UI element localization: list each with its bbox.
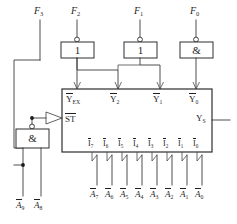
- label-a2: A2: [165, 188, 173, 199]
- label-y2: Y2: [110, 93, 119, 104]
- label-f3: F3: [34, 6, 43, 16]
- label-y-ex: YEX: [66, 93, 80, 104]
- arrow-i4-input: [137, 152, 142, 161]
- label-f1: F1: [134, 6, 143, 16]
- label-i5: I5: [118, 138, 123, 148]
- arrow-i0-input: [197, 152, 202, 161]
- wire-bus-mid-left: [118, 65, 140, 70]
- arrow-i2-input: [167, 152, 172, 161]
- label-i4: I4: [133, 138, 138, 148]
- label-strobe-st: ST: [65, 113, 76, 124]
- gate-symbol-f1: 1: [124, 44, 157, 56]
- wire-gate-f2-to-y2: [77, 58, 118, 88]
- label-i1: I1: [178, 138, 183, 148]
- label-a9: A9: [16, 199, 24, 210]
- bubble-gate-f1: [138, 37, 143, 42]
- label-y1: Y1: [153, 93, 162, 104]
- label-a5: A5: [120, 188, 128, 199]
- bubble-and-gate: [30, 124, 35, 129]
- bubble-gate-f0: [194, 37, 199, 42]
- label-a6: A6: [105, 188, 113, 199]
- label-f2: F2: [71, 6, 80, 16]
- wire-gate-f1-to-y1: [140, 58, 160, 88]
- label-i7: I7: [88, 138, 93, 148]
- bubble-gate-f2: [75, 37, 80, 42]
- strobe-buffer-triangle: [46, 112, 62, 124]
- arrow-i7-input: [92, 152, 97, 161]
- label-a0: A0: [195, 188, 203, 199]
- arrow-i5-input: [122, 152, 127, 161]
- arrow-i1-input: [182, 152, 187, 161]
- label-a1: A1: [180, 188, 188, 199]
- label-i3: I3: [148, 138, 153, 148]
- gate-symbol-f2: 1: [61, 44, 94, 56]
- label-i6: I6: [103, 138, 108, 148]
- label-a3: A3: [150, 188, 158, 199]
- label-i0: I0: [193, 138, 198, 148]
- label-y0: Y0: [189, 93, 198, 104]
- label-a7: A7: [90, 188, 98, 199]
- logic-diagram: F3 F2 F1 F0 1 1 & & YEX Y2 Y1 Y0 ST YS I…: [0, 0, 237, 224]
- label-a4: A4: [135, 188, 143, 199]
- junction-strobe: [30, 116, 34, 120]
- arrow-i6-input: [107, 152, 112, 161]
- arrow-i3-input: [152, 152, 157, 161]
- gate-symbol-and: &: [16, 132, 49, 144]
- junction-a9: [21, 163, 25, 167]
- label-output-ys: YS: [196, 114, 206, 123]
- label-i2: I2: [163, 138, 168, 148]
- label-f0: F0: [190, 6, 199, 16]
- label-a8: A8: [34, 199, 42, 210]
- gate-symbol-f0: &: [180, 44, 213, 56]
